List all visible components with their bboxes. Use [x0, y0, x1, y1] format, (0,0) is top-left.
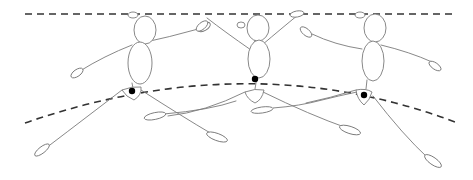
left-arm: [80, 45, 132, 71]
left-hand: [69, 66, 84, 80]
hair-bun: [355, 12, 365, 18]
leap-sequence-diagram: [0, 0, 473, 180]
hair-bun: [237, 22, 245, 28]
front-leg: [141, 90, 212, 134]
torso: [128, 42, 152, 84]
extra-leg-stroke: [164, 101, 236, 114]
right-hand: [427, 59, 442, 72]
front-foot: [423, 152, 444, 169]
pelvis-center-dot: [361, 92, 367, 98]
torso: [248, 40, 270, 78]
pelvis: [245, 89, 264, 103]
front-foot: [338, 123, 361, 137]
front-foot: [205, 130, 228, 144]
figures-group: [33, 10, 443, 170]
pelvis-trajectory-arc: [25, 84, 455, 123]
extra-foot: [144, 110, 167, 121]
head: [134, 16, 156, 44]
extra-leg-stroke: [273, 92, 357, 108]
left-arm: [312, 34, 362, 49]
torso: [362, 41, 384, 81]
waist: [366, 80, 367, 89]
figure-3: [298, 12, 443, 170]
back-foot: [251, 105, 274, 114]
back-foot: [33, 142, 51, 158]
front-leg: [373, 96, 428, 158]
right-arm: [381, 45, 432, 62]
left-hand: [298, 25, 313, 39]
right-hand: [290, 10, 305, 18]
back-leg: [306, 90, 356, 103]
hair-bun: [128, 12, 138, 18]
back-leg: [46, 90, 122, 148]
figure-2: [168, 10, 362, 137]
pelvis-center-dot: [252, 76, 258, 82]
head: [247, 15, 269, 41]
pelvis-center-dot: [129, 88, 135, 94]
head: [364, 14, 386, 42]
